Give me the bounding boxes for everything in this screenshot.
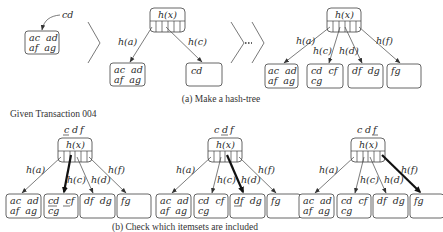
edge-label: h(a) [319, 164, 338, 175]
edge-label: h(f) [258, 164, 275, 175]
hash-node-label: h(x) [216, 139, 235, 150]
edge-label: h(d) [384, 174, 404, 185]
leaf-line1: fg [270, 195, 281, 206]
leaf-line1: df dg [352, 65, 380, 76]
hash-node-label: h(x) [66, 139, 85, 150]
leaf-line2: af ag [10, 205, 37, 216]
part-a-make-hash-tree: cd ac ad af ag h(x) h(a) h(c) ac ad af a… [25, 8, 421, 105]
edge-label: h(c) [188, 36, 207, 47]
hash-tree-diagram: cd ac ad af ag h(x) h(a) h(c) ac ad af a… [0, 0, 443, 232]
leaf-line1: fg [413, 195, 424, 206]
edge-label: h(f) [108, 164, 125, 175]
edge-label: h(c) [360, 174, 379, 185]
transaction-title: Given Transaction 004 [10, 109, 97, 119]
check-tree-d: c d f h(x) h(a) h(c) h(d) h(f) ac ad af … [156, 124, 301, 218]
step1-single-leaf: cd ac ad af ag [25, 9, 73, 54]
edge-label: h(c) [313, 45, 332, 56]
insert-arrow [42, 15, 60, 30]
leaf-line2: cg [311, 75, 322, 86]
leaf-line1: fg [120, 195, 131, 206]
incoming-itemset-label: cd [62, 9, 73, 20]
step2-tree: h(x) h(a) h(c) ac ad af ag cd [110, 8, 222, 86]
transaction-item: d [72, 124, 78, 135]
leaf-line1: df dg [377, 195, 405, 206]
edge-label: h(f) [376, 35, 393, 46]
edge-label: h(a) [176, 164, 195, 175]
hash-node-label: h(x) [359, 139, 378, 150]
check-tree-f: c d f h(x) h(a) h(c) h(d) h(f) ac ad af … [299, 124, 443, 218]
edge-label: h(d) [241, 174, 261, 185]
continue-arrow-icon [231, 22, 264, 63]
leaf-line2: cg [341, 205, 352, 216]
edge-label: h(a) [118, 36, 137, 47]
edge-label: h(c) [217, 174, 236, 185]
check-tree-c: c d f h(x) h(a) h(c) h(d) h(f) ac ad af … [6, 124, 151, 218]
edge-label: h(f) [401, 164, 418, 175]
caption-b: (b) Check which itemsets are included [112, 222, 258, 232]
hash-node-label: h(x) [158, 9, 177, 20]
edge-label: h(d) [91, 174, 111, 185]
transaction-item: c [214, 124, 220, 135]
part-b-check-transaction: Given Transaction 004 c d f h(x) h(a) h(… [6, 109, 443, 232]
transaction-item: d [222, 124, 228, 135]
step3-tree: h(x) h(a) h(c) h(d) h(f) ac ad af ag cd … [265, 8, 421, 88]
leaf-line2: cg [48, 205, 59, 216]
leaf-line1: df dg [84, 195, 112, 206]
edge-label: h(c) [67, 174, 86, 185]
leaf-line1: fg [390, 65, 401, 76]
hash-node-label: h(x) [335, 9, 354, 20]
leaf-line2: cg [198, 205, 209, 216]
caption-a: (a) Make a hash-tree [182, 94, 260, 105]
leaf-line2: af ag [268, 75, 295, 86]
transaction-item: c [64, 124, 70, 135]
step-arrow-icon [88, 22, 100, 63]
edge-label: h(d) [339, 45, 359, 56]
transaction-item: f [229, 124, 235, 135]
leaf-line1: df dg [234, 195, 262, 206]
leaf-line2: af ag [114, 74, 141, 85]
transaction-item: f [372, 124, 378, 135]
leaf-line2: af ag [160, 205, 187, 216]
transaction-item: c [357, 124, 363, 135]
leaf-line2: af ag [29, 42, 56, 53]
transaction-item: d [365, 124, 371, 135]
transaction-item: f [79, 124, 85, 135]
leaf-line2: af ag [303, 205, 330, 216]
edge-label: h(a) [26, 164, 45, 175]
leaf-line1: cd [191, 65, 202, 76]
